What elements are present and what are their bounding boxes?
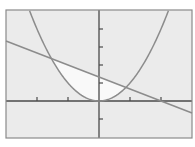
graph-plot	[0, 0, 195, 147]
